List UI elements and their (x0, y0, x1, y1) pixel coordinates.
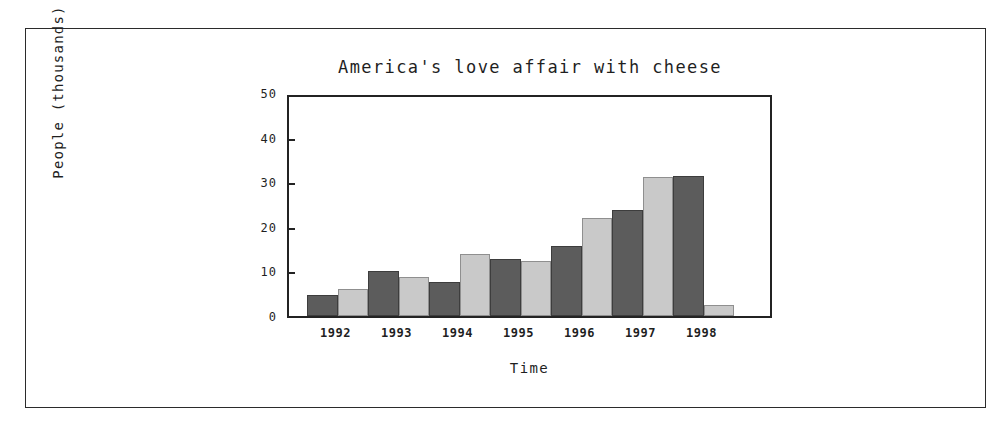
x-tick-label-1998: 1998 (667, 326, 737, 340)
bar-1997-light (643, 177, 674, 316)
bar-1998-dark (673, 176, 704, 316)
y-tick-mark (287, 139, 295, 141)
bar-1992-light (338, 289, 369, 316)
x-tick-label-1997: 1997 (606, 326, 676, 340)
bar-chart: America's love affair with cheese People… (0, 0, 1004, 422)
y-axis-label: People (thousands) (50, 0, 66, 212)
bar-1994-dark (429, 282, 460, 316)
bar-1996-dark (551, 246, 582, 316)
y-tick-label: 0 (243, 310, 277, 324)
figure-page: America's love affair with cheese People… (0, 0, 1004, 422)
bar-1995-light (521, 261, 552, 316)
y-tick-label: 50 (243, 87, 277, 101)
x-tick-label-1996: 1996 (545, 326, 615, 340)
bar-1997-dark (612, 210, 643, 316)
y-tick-mark (287, 183, 295, 185)
y-tick-label: 20 (243, 221, 277, 235)
bars-container (289, 97, 770, 316)
y-tick-label: 10 (243, 265, 277, 279)
y-tick-mark (287, 228, 295, 230)
y-tick-label: 30 (243, 176, 277, 190)
bar-1996-light (582, 218, 613, 316)
bar-1995-dark (490, 259, 521, 316)
bar-1993-dark (368, 271, 399, 316)
y-tick-label: 40 (243, 132, 277, 146)
x-tick-label-1994: 1994 (423, 326, 493, 340)
bar-1993-light (399, 277, 430, 316)
x-tick-label-1992: 1992 (301, 326, 371, 340)
chart-title: America's love affair with cheese (287, 57, 773, 77)
bar-1992-dark (307, 295, 338, 316)
plot-area (287, 95, 772, 318)
x-tick-label-1993: 1993 (362, 326, 432, 340)
y-tick-mark (287, 272, 295, 274)
bar-1998-light (704, 305, 735, 316)
x-tick-label-1995: 1995 (484, 326, 554, 340)
bar-1994-light (460, 254, 491, 316)
x-axis-label: Time (287, 360, 772, 376)
